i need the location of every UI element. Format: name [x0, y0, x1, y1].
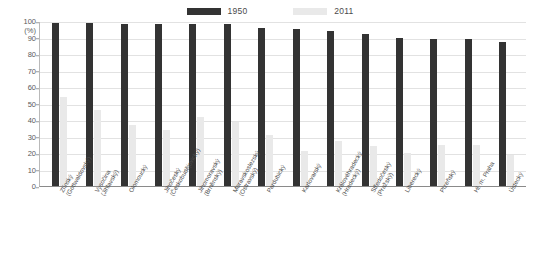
bar-group — [145, 22, 179, 186]
x-axis-label: Jihomoravský(Brněnský) — [196, 190, 208, 197]
bar-1950 — [52, 23, 59, 186]
y-tick-label: 90 — [28, 35, 36, 43]
bar-group — [111, 22, 145, 186]
bar-1950 — [465, 39, 472, 186]
y-tick-label: 30 — [28, 134, 36, 142]
y-tick-mark — [36, 22, 39, 23]
x-axis-label-line2: (Českobudějovický) — [168, 194, 174, 198]
x-axis-label: Královéhradecký(Hradecký) — [334, 190, 346, 197]
y-tick-mark — [36, 105, 39, 106]
x-axis-label: Hl. m. Praha — [472, 190, 478, 194]
x-axis-label: Středočeský(Pražský) — [369, 190, 381, 197]
y-tick-label: 20 — [28, 150, 36, 158]
y-tick-mark — [36, 138, 39, 139]
bar-group — [180, 22, 214, 186]
legend-label-1950: 1950 — [228, 7, 248, 16]
plot-wrapper: 1009080706050403020100 (%) — [39, 22, 526, 187]
x-axis-label: Plzeňský — [438, 190, 444, 194]
y-tick-label: 50 — [28, 101, 36, 109]
legend-item-2011: 2011 — [293, 7, 353, 16]
y-tick-label: 70 — [28, 68, 36, 76]
x-axis-label-line2: (Gottwaldovský) — [64, 194, 70, 198]
x-axis-label-line2: (Pražský) — [375, 194, 381, 198]
y-tick-label: 100 — [23, 18, 36, 26]
x-axis-label: Ústecký — [507, 190, 513, 194]
bar-group — [489, 22, 523, 186]
y-tick-label: 80 — [28, 51, 36, 59]
x-axis-label: Liberecký — [403, 190, 409, 194]
y-tick-mark — [36, 39, 39, 40]
x-axis-label: Zlínský(Gottwaldovský) — [58, 190, 70, 197]
bar-1950 — [362, 34, 369, 186]
bar-1950 — [293, 29, 300, 186]
x-axis-label-line2: (Jihlavský) — [99, 194, 105, 198]
y-tick-mark — [36, 88, 39, 89]
bar-group — [283, 22, 317, 186]
bar-1950 — [499, 42, 506, 186]
legend-swatch-1950 — [187, 8, 221, 15]
bar-group — [421, 22, 455, 186]
y-tick-label: 0 — [32, 183, 36, 191]
plot-area: 1009080706050403020100 (%) — [39, 22, 526, 187]
y-axis-unit-label: (%) — [24, 27, 36, 35]
bar-groups — [40, 22, 526, 186]
legend-item-1950: 1950 — [187, 7, 248, 16]
y-tick-label: 60 — [28, 84, 36, 92]
bar-group — [42, 22, 76, 186]
bar-1950 — [224, 24, 231, 186]
y-tick-label: 10 — [28, 167, 36, 175]
bar-2011 — [60, 97, 67, 186]
x-axis-labels: Zlínský(Gottwaldovský)Vysočina(Jihlavský… — [39, 188, 526, 264]
y-tick-mark — [36, 171, 39, 172]
bar-1950 — [430, 39, 437, 186]
bar-1950 — [327, 31, 334, 186]
bar-2011 — [94, 110, 101, 186]
legend-swatch-2011 — [293, 8, 327, 15]
bar-1950 — [396, 38, 403, 187]
bar-group — [317, 22, 351, 186]
x-axis-label: Jihočeský(Českobudějovický) — [162, 190, 174, 197]
y-tick-mark — [36, 55, 39, 56]
x-axis-label: Vysočina(Jihlavský) — [93, 190, 105, 197]
y-tick-label: 40 — [28, 117, 36, 125]
chart-legend: 1950 2011 — [0, 3, 540, 19]
bar-1950 — [155, 24, 162, 186]
bar-group — [455, 22, 489, 186]
x-axis-label: Olomoucký — [127, 190, 133, 194]
x-axis-label-line2: (Ostravský) — [237, 194, 243, 198]
x-axis-label: Karlovarský — [300, 190, 306, 194]
y-tick-mark — [36, 72, 39, 73]
x-axis-label: Moravskoslezský(Ostravský) — [231, 190, 243, 197]
y-tick-mark — [36, 121, 39, 122]
x-axis-label-line2: (Brněnský) — [202, 194, 208, 198]
legend-label-2011: 2011 — [334, 7, 353, 16]
y-tick-mark — [36, 154, 39, 155]
bar-chart: 1950 2011 1009080706050403020100 (%) Zlí… — [0, 0, 540, 266]
bar-1950 — [258, 28, 265, 186]
bar-1950 — [121, 24, 128, 186]
x-axis-label-line2: (Hradecký) — [340, 194, 346, 198]
bar-group — [386, 22, 420, 186]
x-axis-label: Pardubický — [265, 190, 271, 194]
